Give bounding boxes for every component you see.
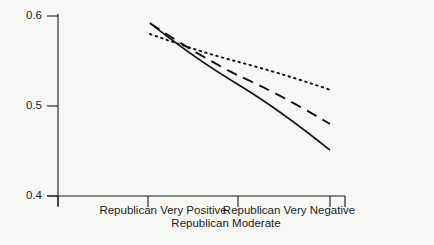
y-tick-label-0: 0.6	[26, 9, 42, 21]
y-tick-label-2: 0.4	[26, 189, 43, 201]
x-tick-label-1: Republican Moderate	[171, 217, 280, 229]
series-solid	[150, 23, 330, 150]
chart-container: 0.6 0.5 0.4 Republican Very Positive Rep…	[0, 0, 434, 245]
y-tick-label-1: 0.5	[26, 99, 42, 111]
series-dashed	[150, 23, 330, 124]
x-tick-label-0: Republican Very Positive	[99, 204, 226, 216]
line-chart: 0.6 0.5 0.4 Republican Very Positive Rep…	[0, 0, 434, 245]
series-dotted	[150, 34, 330, 90]
x-tick-label-2: Republican Very Negative	[223, 204, 355, 216]
